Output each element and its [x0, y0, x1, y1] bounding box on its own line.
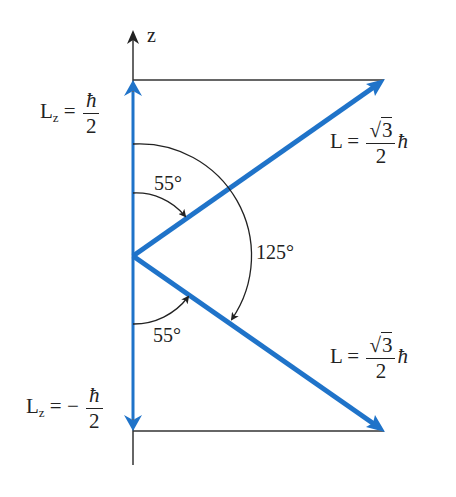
l-upper-equals: = — [347, 129, 359, 153]
l-upper-label: L = √3 2 ħ — [330, 120, 408, 167]
lz-up-subscript: z — [53, 110, 59, 125]
lz-up-denominator: 2 — [86, 114, 97, 137]
l-upper-lhs: L — [330, 129, 342, 153]
lz-down-vector — [124, 256, 142, 431]
angle-label-upper: 55° — [154, 173, 182, 193]
lz-down-lhs: L — [26, 394, 39, 418]
sqrt-icon: √ — [369, 118, 381, 142]
l-lower-radicand: 3 — [381, 332, 393, 357]
lz-down-label: Lz = − ħ 2 — [26, 385, 105, 432]
l-lower-lhs: L — [330, 344, 342, 368]
lz-down-numerator: ħ — [86, 385, 103, 409]
lz-up-vector — [124, 80, 142, 256]
lz-up-fraction: ħ 2 — [83, 90, 100, 137]
l-lower-label: L = √3 2 ħ — [330, 335, 408, 382]
l-upper-vector — [133, 79, 385, 256]
l-upper-hbar: ħ — [397, 129, 408, 153]
l-upper-denominator: 2 — [376, 144, 387, 167]
lz-up-label: Lz = ħ 2 — [40, 90, 101, 137]
l-lower-denominator: 2 — [376, 359, 387, 382]
angle-label-between: 125° — [256, 242, 294, 262]
angle-arc-125 — [133, 144, 252, 319]
lz-down-sign: − — [67, 394, 79, 418]
l-lower-hbar: ħ — [397, 344, 408, 368]
z-axis-label: z — [147, 25, 156, 45]
angle-arc-lower-55 — [133, 297, 188, 324]
l-upper-fraction: √3 2 — [366, 120, 395, 167]
lz-up-numerator: ħ — [83, 90, 100, 114]
l-lower-equals: = — [347, 344, 359, 368]
l-lower-fraction: √3 2 — [366, 335, 395, 382]
l-upper-radicand: 3 — [381, 117, 393, 142]
lz-down-denominator: 2 — [89, 409, 100, 432]
lz-up-lhs: L — [40, 99, 53, 123]
sqrt-icon: √ — [369, 333, 381, 357]
angle-label-lower: 55° — [153, 325, 181, 345]
lz-down-fraction: ħ 2 — [86, 385, 103, 432]
lz-up-equals: = — [64, 99, 76, 123]
lz-down-equals: = — [50, 394, 62, 418]
lz-down-subscript: z — [39, 405, 45, 420]
angle-arc-upper-55 — [133, 193, 185, 216]
